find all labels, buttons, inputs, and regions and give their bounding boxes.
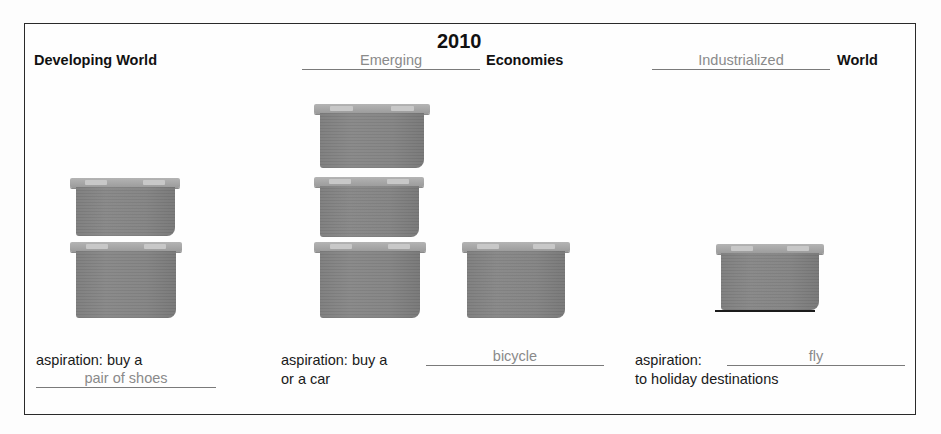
box-body: [721, 253, 818, 310]
box-emerging-3: [314, 242, 426, 318]
box-emerging-2: [314, 177, 424, 237]
box-developing-1: [70, 178, 180, 236]
box-body: [320, 251, 421, 318]
developing-aspiration-prefix: aspiration: buy a: [36, 351, 142, 370]
emerging-aspiration-prefix: aspiration: buy a: [281, 351, 387, 370]
box-emerging-1: [314, 104, 430, 168]
industrialized-aspiration-prefix: aspiration:: [635, 351, 702, 370]
industrialized-aspiration-fill: fly: [727, 348, 905, 366]
developing-aspiration-fill: pair of shoes: [36, 370, 216, 388]
box-body: [76, 251, 177, 318]
industrialized-title-static: World: [837, 52, 878, 68]
diagram-title: 2010: [437, 30, 482, 53]
industrialized-title-fill: Industrialized: [652, 52, 830, 70]
emerging-title-fill: Emerging: [302, 52, 480, 70]
developing-world-title: Developing World: [34, 52, 157, 68]
box-industrialized-1: [716, 244, 824, 310]
box-body: [76, 187, 175, 236]
box-body: [320, 186, 419, 237]
emerging-aspiration-fill: bicycle: [426, 348, 604, 366]
emerging-aspiration-suffix: or a car: [281, 370, 330, 389]
industrialized-aspiration-suffix: to holiday destinations: [635, 370, 779, 389]
box-body: [320, 113, 424, 168]
box-emerging-4: [462, 242, 570, 318]
box-developing-2: [70, 242, 182, 318]
baseline-line: [715, 310, 815, 312]
emerging-title-static: Economies: [486, 52, 563, 68]
box-body: [467, 251, 564, 318]
